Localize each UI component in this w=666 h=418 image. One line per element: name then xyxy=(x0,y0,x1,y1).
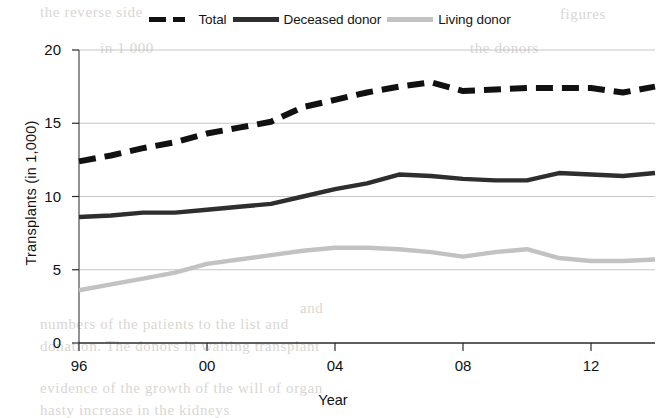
x-tick-label: 00 xyxy=(187,357,227,374)
y-tick-label: 20 xyxy=(27,41,61,58)
y-tick-label: 0 xyxy=(27,334,61,351)
series-line-living-donor xyxy=(79,248,655,290)
series-line-total xyxy=(79,82,655,161)
x-tick-label: 08 xyxy=(443,357,483,374)
y-axis-title: Transplants (in 1,000) xyxy=(23,68,39,318)
x-axis-title: Year xyxy=(0,392,666,408)
series-line-deceased-donor xyxy=(79,173,655,217)
x-tick-label: 96 xyxy=(59,357,99,374)
chart-page: the reverse sidefiguresin 1 000the donor… xyxy=(0,0,666,418)
axis-tick-marks xyxy=(72,50,591,351)
plot-area xyxy=(0,0,666,418)
chart-canvas xyxy=(0,0,666,418)
data-series-layer xyxy=(79,82,655,290)
x-tick-label: 04 xyxy=(315,357,355,374)
x-tick-label: 12 xyxy=(571,357,611,374)
